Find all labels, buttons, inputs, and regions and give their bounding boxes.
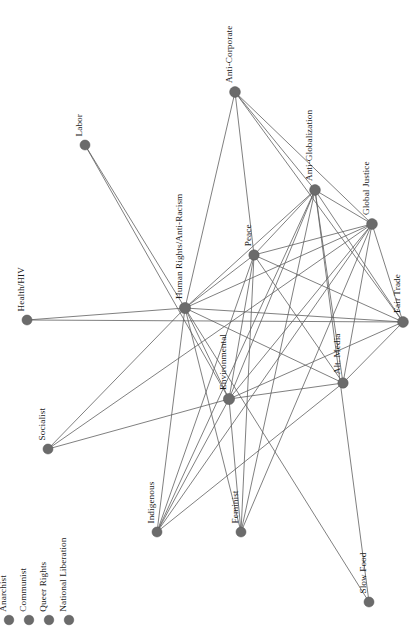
graph-node-label-global_justice: Global Justice xyxy=(361,161,371,215)
graph-node-indigenous[interactable] xyxy=(152,527,162,537)
graph-edge xyxy=(315,190,369,602)
edges-layer xyxy=(27,92,403,602)
graph-node-anti_globalization[interactable] xyxy=(310,185,321,196)
graph-node-communist[interactable] xyxy=(24,615,34,625)
graph-node-anti_corporate[interactable] xyxy=(230,87,241,98)
graph-node-label-feminist: Feminist xyxy=(230,490,240,523)
graph-node-alt_media[interactable] xyxy=(338,378,348,388)
graph-node-global_justice[interactable] xyxy=(367,219,378,230)
labels-layer: Anti-CorporateLaborAnti-GlobalizationGlo… xyxy=(0,26,402,612)
graph-edge xyxy=(229,322,403,399)
graph-node-feminist[interactable] xyxy=(236,527,246,537)
graph-node-labor[interactable] xyxy=(80,140,90,150)
graph-edge xyxy=(157,255,254,532)
graph-node-label-fair_trade: Fair Trade xyxy=(392,274,402,313)
graph-edge xyxy=(254,190,315,255)
graph-node-label-peace: Peace xyxy=(243,224,253,246)
graph-edge xyxy=(241,255,254,532)
graph-edge xyxy=(48,308,185,449)
network-graph-figure: Anti-CorporateLaborAnti-GlobalizationGlo… xyxy=(0,0,420,637)
graph-node-label-indigenous: Indigenous xyxy=(146,481,156,523)
graph-edge xyxy=(27,308,185,320)
graph-node-peace[interactable] xyxy=(249,250,259,260)
graph-node-environmental[interactable] xyxy=(223,393,234,404)
graph-edge xyxy=(85,145,185,308)
graph-node-label-environmental: Environmental xyxy=(218,334,228,390)
graph-edge xyxy=(157,399,229,532)
graph-node-label-socialist: Socialist xyxy=(37,408,47,441)
graph-node-fair_trade[interactable] xyxy=(398,317,409,328)
graph-node-label-health_hiv: Health/HIV xyxy=(16,267,26,312)
graph-node-label-alt_media: Alt. Media xyxy=(332,333,342,374)
graph-node-label-labor: Labor xyxy=(74,114,84,136)
graph-edge xyxy=(241,224,372,532)
graph-node-label-communist: Communist xyxy=(18,568,28,612)
graph-node-label-anti_globalization: Anti-Globalization xyxy=(304,110,314,182)
graph-edge xyxy=(229,224,372,399)
graph-node-label-slow_food: Slow Food xyxy=(358,552,368,593)
graph-node-health_hiv[interactable] xyxy=(22,315,32,325)
graph-edge xyxy=(157,383,343,532)
graph-edge xyxy=(27,320,403,322)
graph-node-label-anarchist: Anarchist xyxy=(0,575,8,612)
graph-edge xyxy=(254,255,343,383)
graph-edge xyxy=(185,190,315,308)
graph-node-label-anti_corporate: Anti-Corporate xyxy=(224,26,234,84)
graph-node-label-national_liberation: National Liberation xyxy=(58,537,68,611)
graph-edge xyxy=(85,145,229,399)
graph-edge xyxy=(48,224,372,449)
graph-node-socialist[interactable] xyxy=(43,444,53,454)
graph-edge xyxy=(235,92,403,322)
graph-edge xyxy=(48,399,229,449)
graph-node-queer_rights[interactable] xyxy=(44,615,54,625)
network-graph-canvas: Anti-CorporateLaborAnti-GlobalizationGlo… xyxy=(0,0,420,637)
graph-node-slow_food[interactable] xyxy=(364,597,374,607)
graph-node-label-queer_rights: Queer Rights xyxy=(38,561,48,611)
graph-node-national_liberation[interactable] xyxy=(64,615,74,625)
graph-edge xyxy=(343,322,403,383)
graph-node-human_rights[interactable] xyxy=(179,302,190,313)
graph-edge xyxy=(343,224,372,383)
graph-node-anarchist[interactable] xyxy=(4,615,14,625)
graph-node-label-human_rights: Human Rights/Anti-Racism xyxy=(174,194,184,299)
